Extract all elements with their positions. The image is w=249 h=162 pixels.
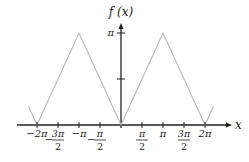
- x-axis-arrow-icon: [226, 123, 232, 128]
- x-tick-label-denominator: 2: [139, 141, 145, 152]
- y-tick-label: π: [106, 27, 114, 38]
- x-tick-label-numerator: π: [138, 128, 146, 139]
- y-axis-arrow-icon: [119, 23, 124, 29]
- y-axis-label: f (x): [108, 5, 134, 19]
- x-tick-label-numerator: π: [96, 128, 104, 139]
- x-tick-label-sign: −: [45, 134, 53, 145]
- x-tick-label: 2π: [198, 128, 212, 139]
- x-tick-label-numerator: 3π: [178, 128, 191, 139]
- x-tick-label: π: [159, 128, 167, 139]
- x-tick-label-denominator: 2: [55, 141, 61, 152]
- chart: −2π3π2−−ππ2−π2π3π22ππ f (x) x: [0, 0, 249, 162]
- x-tick-label-denominator: 2: [181, 141, 187, 152]
- x-tick-label: −π: [72, 128, 87, 139]
- axis-ticks: −2π3π2−−ππ2−π2π3π22ππ: [26, 27, 212, 152]
- x-tick-label-sign: −: [87, 134, 95, 145]
- x-tick-label-denominator: 2: [97, 141, 103, 152]
- x-tick-label-numerator: 3π: [52, 128, 65, 139]
- x-axis-label: x: [235, 118, 242, 132]
